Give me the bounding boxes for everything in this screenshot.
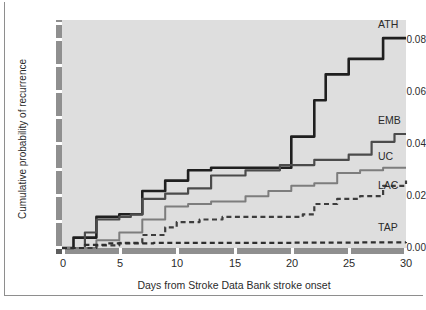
y-axis-bar — [56, 20, 62, 248]
x-tick-label-3: 15 — [215, 258, 255, 269]
x-tick-label-4: 20 — [272, 258, 312, 269]
figure-border-bottom — [4, 295, 423, 296]
series-label-emb: EMB — [378, 115, 401, 126]
x-tick-label-1: 5 — [100, 258, 140, 269]
y-tick-mark-minor-0 — [56, 220, 62, 223]
y-tick-mark-1 — [56, 194, 62, 197]
x-tick-label-0: 0 — [43, 258, 83, 269]
x-tick-mark-3 — [234, 248, 237, 254]
x-axis-title: Days from Stroke Data Bank stroke onset — [62, 280, 406, 291]
x-tick-mark-5 — [348, 248, 351, 254]
figure-border-left — [4, 2, 5, 296]
x-tick-label-6: 30 — [386, 258, 426, 269]
series-label-uc: UC — [378, 151, 393, 162]
x-tick-mark-4 — [291, 248, 294, 254]
y-tick-mark-minor-2 — [56, 116, 62, 119]
y-tick-mark-2 — [56, 142, 62, 145]
figure-container: Cumulative probability of recurrence 0.0… — [0, 0, 426, 310]
x-tick-mark-1 — [119, 248, 122, 254]
x-tick-mark-2 — [176, 248, 179, 254]
y-tick-mark-minor-1 — [56, 168, 62, 171]
y-tick-mark-4 — [56, 38, 62, 41]
y-tick-mark-minor-3 — [56, 64, 62, 67]
series-label-tap: TAP — [378, 222, 398, 233]
y-tick-mark-3 — [56, 90, 62, 93]
x-tick-label-2: 10 — [157, 258, 197, 269]
y-tick-mark-minor-4 — [56, 22, 62, 25]
series-label-lac: LAC — [378, 180, 398, 191]
x-tick-label-5: 25 — [329, 258, 369, 269]
plot-area — [62, 20, 406, 248]
x-tick-mark-6 — [404, 248, 407, 254]
x-tick-mark-0 — [62, 248, 65, 254]
y-axis-title: Cumulative probability of recurrence — [18, 24, 28, 254]
series-label-ath: ATH — [378, 19, 398, 30]
